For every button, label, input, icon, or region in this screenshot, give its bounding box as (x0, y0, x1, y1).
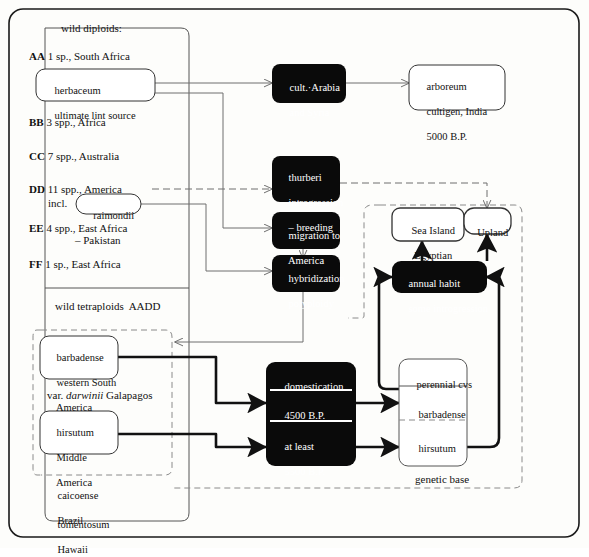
thurberi-line1: thurberi (289, 172, 322, 183)
hybridization-line2: polyploidy (289, 298, 335, 309)
barbadense-wild-line1: barbadense (57, 352, 104, 363)
annual-habit-line2: some introgression (409, 303, 489, 314)
barbadense-wild-line2: western South (57, 377, 117, 388)
edge-herbaceum-to-migration (155, 93, 272, 228)
box-perennial-barbadense[interactable]: barbadense (408, 396, 466, 434)
domestication-row1: 4500 B.P. (285, 410, 326, 421)
genome-code-ee: EE (29, 222, 44, 234)
migration-line1: migration to (289, 230, 341, 241)
wild-tetraploids-title: wild tetraploids AADD (55, 300, 160, 313)
genome-row-cc: CC 7 spp., Australia (29, 150, 119, 163)
hirsutum-wild-line2: Middle (57, 452, 87, 463)
domestication-header: domestication (285, 381, 344, 392)
hybridization-line1: hybridization (289, 273, 345, 284)
arboreum-line2: cultigen, India (427, 106, 488, 117)
genome-row-aa: AA 1 sp., South Africa (29, 50, 130, 63)
cult-arabia-line1: cult.·Arabia (290, 82, 340, 93)
box-domestication-5500[interactable]: at least 5500 B.P. (274, 428, 325, 491)
herbaceum-line1: herbaceum (55, 85, 101, 96)
genome-code-bb: BB (29, 116, 44, 128)
genome-text-aa: 1 sp., South Africa (48, 50, 130, 62)
perennial-hirsutum-label: hirsutum (419, 443, 456, 454)
caicoense-line1: caicoense (58, 490, 99, 501)
sea-island-line2: Egyptian (414, 250, 452, 261)
box-hybridization[interactable]: hybridization polyploidy (278, 260, 345, 323)
genome-row-dd: DD 11 spp., America (29, 183, 122, 196)
genome-text-cc: 7 spp., Australia (48, 150, 120, 162)
genome-code-cc: CC (29, 150, 45, 162)
sea-island-line1: Sea Island (412, 225, 455, 236)
genetic-base-title: genetic base (415, 473, 469, 486)
edge-thurberi-to-upland (340, 183, 487, 208)
edge-perennial-barbadense-to-annual (379, 277, 400, 389)
domestication-row2-line2: 5500 B.P. (285, 466, 326, 477)
herbaceum-line2: ultimate lint source (55, 110, 136, 121)
thurberi-line2: introgression (289, 197, 344, 208)
domestication-row2-line1: at least (285, 441, 314, 452)
cult-arabia-line2: and Syria (290, 107, 330, 118)
tomentosum-line2: Hawaii (58, 544, 88, 555)
edge-raimondii-to-hybridization (141, 204, 272, 271)
genome-row-ee-cont: – Pakistan (75, 234, 121, 247)
box-cult-arabia[interactable]: cult.·Arabia and Syria (279, 69, 340, 132)
box-herbaceum[interactable]: herbaceum ultimate lint source (44, 72, 136, 135)
perennial-barbadense-label: barbadense (419, 409, 466, 420)
genome-text-dd: 11 spp., America (48, 183, 122, 195)
box-perennial-hirsutum[interactable]: hirsutum (408, 430, 456, 468)
box-tomentosum: tomentosum Hawaii (47, 506, 109, 557)
box-raimondii[interactable]: raimondii (76, 197, 141, 235)
genome-row-ff: FF 1 sp., East Africa (29, 258, 121, 271)
tomentosum-line1: tomentosum (58, 519, 110, 530)
annual-habit-line1: annual habit (409, 278, 461, 289)
arboreum-line1: arboreum (427, 81, 467, 92)
genome-code-ff: FF (29, 258, 42, 270)
edge-hirsutum-to-5500 (118, 434, 266, 447)
perennial-cvs-header: perennial cvs (417, 379, 473, 390)
box-annual-habit[interactable]: annual habit some introgression (398, 265, 488, 328)
wild-diploids-title: wild diploids: (61, 22, 122, 35)
hirsutum-wild-line1: hirsutum (57, 427, 94, 438)
genome-text-ff: 1 sp., East Africa (45, 258, 120, 270)
incl-label: incl. (48, 197, 67, 210)
raimondii-line1: raimondii (93, 210, 134, 221)
box-upland[interactable]: Upland (464, 214, 511, 252)
barbadense-wild-line3: America (56, 402, 92, 413)
genome-code-dd: DD (29, 183, 45, 195)
upland-line1: Upland (477, 227, 508, 238)
arboreum-line3: 5000 B.P. (427, 131, 468, 142)
box-arboreum[interactable]: arboreum cultigen, India 5000 B.P. (416, 68, 487, 156)
genome-code-aa: AA (29, 50, 45, 62)
